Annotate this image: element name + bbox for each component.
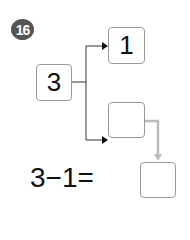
- equation-answer-box[interactable]: [140, 162, 176, 198]
- arrow-icon: [102, 136, 108, 144]
- whole-number-box: 3: [36, 64, 72, 101]
- part-a-box: 1: [108, 27, 145, 64]
- part-b-answer-box[interactable]: [108, 102, 145, 138]
- arrow-down-icon: [154, 154, 162, 161]
- subtraction-equation: 3−1=: [30, 160, 94, 196]
